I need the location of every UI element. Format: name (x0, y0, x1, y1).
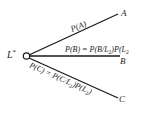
root-node-label: L* (6, 48, 17, 60)
root-node-circle (23, 53, 29, 59)
leaf-label-a: A (120, 8, 127, 18)
probability-tree-diagram: L* A B C P(A) P(B) = P(B/L2)P(L2 P(C) = … (0, 0, 158, 115)
edge-to-c (29, 58, 118, 98)
edge-label-c: P(C) = P(C/L2)P(L2) (27, 60, 94, 97)
leaf-label-c: C (119, 94, 126, 104)
edge-label-b: P(B) = P(B/L2)P(L2 (64, 45, 129, 55)
leaf-label-b: B (120, 56, 126, 66)
